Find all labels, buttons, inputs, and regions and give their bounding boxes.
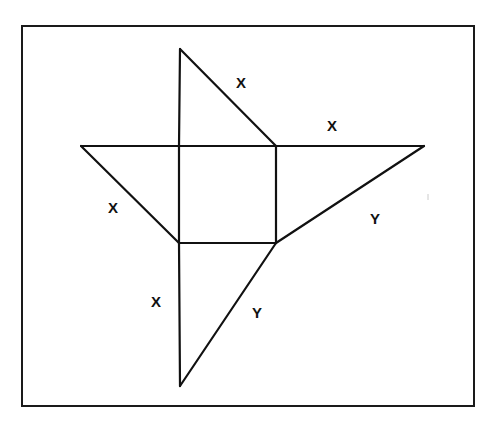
top-triangle-vertical-edge: [179, 49, 180, 146]
diagram-background: [0, 0, 497, 427]
label-bottom-left-edge: X: [151, 293, 161, 310]
label-left-hypotenuse: X: [108, 199, 118, 216]
label-right-hypotenuse: Y: [370, 210, 380, 227]
label-top-hypotenuse: X: [236, 74, 246, 91]
label-right-top-edge: X: [327, 117, 337, 134]
label-bottom-hypotenuse: Y: [252, 304, 262, 321]
geometry-diagram: X X X Y X Y: [0, 0, 497, 427]
bottom-triangle-vertical-edge: [179, 243, 180, 386]
